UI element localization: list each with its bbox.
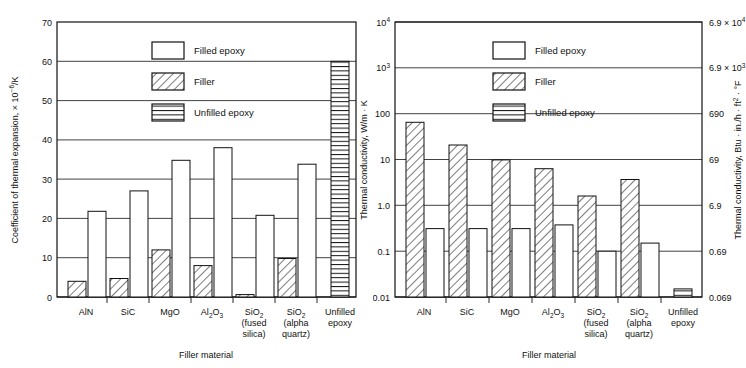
bar-filled-epoxy-al2o3 xyxy=(555,225,573,297)
y-tick-100: 10 xyxy=(380,155,390,165)
cat-label-sio2-alpha-l3: quartz) xyxy=(282,329,310,339)
bar-filled-epoxy-aln xyxy=(426,229,444,297)
right-secondary-axis-title: Thermal conductivity, Btu · in./h · ft2 … xyxy=(732,80,744,240)
bar-filled-epoxy-sic xyxy=(469,229,487,297)
figure-two-bar-charts: 0 10 20 30 40 50 60 70 Coefficient of th… xyxy=(0,0,746,368)
legend-label-filled-epoxy: Filled epoxy xyxy=(194,45,245,56)
cat-label-unfilled: Unfilled xyxy=(668,307,698,317)
cat-label-sio2-alpha-l2: (alpha xyxy=(626,318,651,328)
legend-label-filler: Filler xyxy=(194,76,215,87)
bar-unfilled-epoxy xyxy=(674,289,692,297)
cat-label-unfilled-l2: epoxy xyxy=(671,318,696,328)
left-x-axis-title: Filler material xyxy=(179,350,233,360)
cat-label-sio2-fused: SiO2 xyxy=(245,307,264,319)
svg-text:Coefficient of thermal expansi: Coefficient of thermal expansion, × 10−6… xyxy=(8,76,20,243)
cat-label-unfilled-l2: epoxy xyxy=(328,318,353,328)
left-y-tick-labels: 0 10 20 30 40 50 60 70 xyxy=(42,18,52,303)
left-x-category-labels: AlN SiC MgO Al2O3 SiO2 (fused silica) Si… xyxy=(79,307,355,339)
y-tick-50: 50 xyxy=(42,96,52,106)
right-x-ticks xyxy=(446,297,661,303)
cat-label-sio2-alpha-l2: (alpha xyxy=(283,318,308,328)
legend-swatch-unfilled-epoxy xyxy=(152,104,184,121)
y-tick-70: 70 xyxy=(42,18,52,28)
bar-filler-sio2-alpha xyxy=(621,180,639,298)
y2-tick-0069: 0.069 xyxy=(709,293,732,303)
bar-filled-epoxy-mgo xyxy=(172,160,190,297)
bar-unfilled-epoxy xyxy=(331,61,349,297)
y2-tick-69e3: 6.9 × 103 xyxy=(709,62,746,74)
cat-label-sio2-alpha: SiO2 xyxy=(630,307,649,319)
y-tick-1e3: 103 xyxy=(376,62,390,74)
cat-label-sio2-fused-l2: (fused xyxy=(583,318,608,328)
cat-label-aln: AlN xyxy=(417,307,432,317)
chart-panel-left: 0 10 20 30 40 50 60 70 Coefficient of th… xyxy=(0,0,373,368)
sec-title-a: Thermal conductivity, Btu · in./h · ft xyxy=(733,101,743,240)
y-tick-10: 10 xyxy=(42,253,52,263)
bar-filler-al2o3 xyxy=(194,266,212,297)
y-tick-40: 40 xyxy=(42,135,52,145)
cat-label-sio2-fused-l3: silica) xyxy=(242,329,265,339)
cat-label-sio2-alpha: SiO2 xyxy=(287,307,306,319)
right-chart-svg: 0.01 0.1 1.0 10 100 103 104 0.069 0.69 6… xyxy=(373,0,746,368)
right-bars xyxy=(406,122,692,297)
y-tick-01: 0.1 xyxy=(377,247,390,257)
y-axis-title-main: Coefficient of thermal expansion, × 10 xyxy=(10,92,20,243)
bar-filler-sio2-alpha xyxy=(278,259,296,298)
sec-title-b: · °F xyxy=(733,80,743,98)
cat-label-mgo: MgO xyxy=(160,307,180,317)
left-legend: Filled epoxy Filler Unfilled epoxy xyxy=(152,42,254,121)
left-y-axis-title: Coefficient of thermal expansion, × 10−6… xyxy=(8,76,20,243)
bar-filler-sic xyxy=(449,145,467,297)
legend-swatch-filler xyxy=(493,73,525,90)
y-tick-30: 30 xyxy=(42,175,52,185)
cat-label-unfilled: Unfilled xyxy=(325,307,355,317)
legend-label-filler: Filler xyxy=(535,76,556,87)
bar-filled-epoxy-sio2-alpha xyxy=(298,164,316,297)
bar-filled-epoxy-sio2-fused xyxy=(598,251,616,297)
bar-filler-mgo xyxy=(152,250,170,297)
y-tick-1000: 100 xyxy=(375,109,390,119)
right-legend: Filled epoxy Filler Unfilled epoxy xyxy=(493,42,595,121)
legend-swatch-filled-epoxy xyxy=(493,42,525,59)
bar-filled-epoxy-aln xyxy=(88,211,106,297)
legend-swatch-filler xyxy=(152,73,184,90)
bar-filled-epoxy-sio2-alpha xyxy=(641,243,659,297)
y-tick-001: 0.01 xyxy=(373,293,390,303)
bar-filler-aln xyxy=(68,281,86,297)
left-chart-svg: 0 10 20 30 40 50 60 70 Coefficient of th… xyxy=(0,0,373,368)
legend-swatch-filled-epoxy xyxy=(152,42,184,59)
cat-label-sio2-fused-l2: (fused xyxy=(241,318,266,328)
bar-filled-epoxy-al2o3 xyxy=(214,148,232,297)
right-x-category-labels: AlN SiC MgO Al2O3 SiO2 (fused silica) Si… xyxy=(417,307,698,339)
bar-filler-al2o3 xyxy=(535,169,553,297)
bar-filler-sio2-fused xyxy=(578,196,596,297)
legend-swatch-unfilled-epoxy xyxy=(493,104,525,121)
y2-tick-69b: 69 xyxy=(709,155,719,165)
cat-label-sic: SiC xyxy=(460,307,475,317)
y-tick-10: 1.0 xyxy=(377,201,390,211)
right-y-tick-labels-left: 0.01 0.1 1.0 10 100 103 104 xyxy=(373,16,390,303)
chart-panel-right: 0.01 0.1 1.0 10 100 103 104 0.069 0.69 6… xyxy=(373,0,746,368)
y2-tick-069: 0.69 xyxy=(709,247,727,257)
bar-filled-epoxy-sio2-fused xyxy=(256,215,274,297)
y-tick-60: 60 xyxy=(42,57,52,67)
bar-filler-sio2-fused xyxy=(236,295,254,297)
cat-label-aln: AlN xyxy=(79,307,94,317)
right-x-axis-title: Filler material xyxy=(522,350,576,360)
legend-label-unfilled-epoxy: Unfilled epoxy xyxy=(535,107,595,118)
y2-tick-690: 690 xyxy=(709,109,724,119)
left-x-ticks xyxy=(107,297,317,303)
cat-label-mgo: MgO xyxy=(500,307,520,317)
bar-filled-epoxy-mgo xyxy=(512,229,530,297)
bar-filler-aln xyxy=(406,122,424,297)
bar-filler-mgo xyxy=(492,160,510,297)
bar-filler-sic xyxy=(110,279,128,298)
cat-label-al2o3: Al2O3 xyxy=(542,307,565,319)
bar-filled-epoxy-sic xyxy=(130,191,148,297)
y-tick-0: 0 xyxy=(47,293,52,303)
y-tick-20: 20 xyxy=(42,214,52,224)
right-chart-y-axis-title: Thermal conductivity, W/m · K xyxy=(359,100,369,219)
legend-label-unfilled-epoxy: Unfilled epoxy xyxy=(194,107,254,118)
cat-label-sio2-alpha-l3: quartz) xyxy=(625,329,653,339)
y-tick-1e4: 104 xyxy=(376,16,390,28)
